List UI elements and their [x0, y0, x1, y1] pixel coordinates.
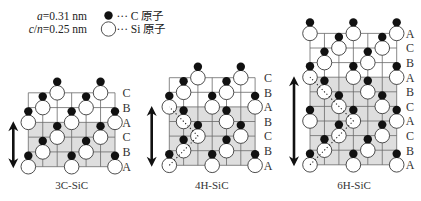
stacking-layer-label: B	[406, 85, 414, 99]
unit-cell-double-arrow-icon	[8, 121, 18, 168]
carbon-atom-icon	[349, 62, 357, 70]
carbon-atom-icon	[364, 135, 372, 143]
silicon-atom-icon	[303, 26, 318, 41]
carbon-atom-icon	[24, 107, 32, 115]
carbon-atom-icon	[67, 107, 75, 115]
stacking-layer-label: A	[122, 116, 131, 130]
carbon-atom-legend-label: ··· C 原子	[117, 10, 164, 22]
silicon-atom-icon	[375, 99, 390, 114]
carbon-atom-icon	[111, 107, 119, 115]
silicon-atom-icon	[219, 143, 234, 158]
silicon-atom-icon	[162, 100, 177, 115]
value-a: =0.31 nm	[43, 10, 87, 22]
carbon-atom-icon	[39, 137, 47, 145]
silicon-atom-icon	[108, 115, 123, 130]
carbon-atom-icon	[194, 121, 202, 129]
stacking-layer-label: A	[406, 114, 415, 128]
unit-cell-double-arrow-icon	[147, 106, 157, 167]
value-cn: =0.25 nm	[43, 23, 87, 35]
carbon-atom-icon	[306, 106, 314, 114]
silicon-atom-icon	[234, 70, 249, 85]
silicon-atom-icon	[205, 158, 220, 173]
panel-6h-sic: ACBABCACBA6H-SiC	[289, 18, 415, 191]
atom-layer-c	[50, 78, 108, 100]
silicon-atom-icon	[346, 158, 361, 173]
carbon-atom-icon	[306, 18, 314, 26]
silicon-atom-icon	[303, 114, 318, 129]
stacking-layer-label: B	[264, 115, 272, 129]
silicon-atom-icon	[176, 85, 191, 100]
carbon-atom-icon	[320, 47, 328, 55]
stacking-layer-label: C	[406, 41, 414, 55]
stacking-layer-label: A	[406, 158, 415, 172]
stacking-layer-label: B	[264, 86, 272, 100]
silicon-atom-icon	[21, 115, 36, 130]
stacking-layer-label: A	[406, 71, 415, 85]
silicon-atom-icon	[191, 70, 206, 85]
carbon-atom-icon	[393, 62, 401, 70]
silicon-atom-icon	[248, 100, 263, 115]
stacking-layer-label: A	[264, 159, 273, 173]
layer-spacing-c-over-n: c/n=0.25 nm	[29, 23, 87, 35]
carbon-atom-icon	[320, 77, 328, 85]
polytype-caption: 3C-SiC	[55, 179, 88, 191]
carbon-atom-icon	[165, 92, 173, 100]
carbon-atom-icon	[364, 47, 372, 55]
sic-polytype-diagram: a=0.31 nm c/n=0.25 nm ··· C 原子 ··· Si 原子…	[0, 0, 421, 201]
stacking-layer-label: C	[264, 71, 272, 85]
silicon-atom-icon	[21, 159, 36, 174]
stacking-layer-label: B	[122, 145, 130, 159]
silicon-atom-icon	[332, 41, 347, 56]
stacking-layer-label: C	[406, 129, 414, 143]
carbon-atom-icon	[237, 121, 245, 129]
carbon-atom-icon	[208, 92, 216, 100]
stacking-layer-label: A	[406, 27, 415, 41]
atom-layer-c	[191, 62, 249, 84]
carbon-atom-icon	[335, 33, 343, 41]
silicon-atom-icon	[361, 85, 376, 100]
carbon-atom-icon	[111, 152, 119, 160]
carbon-atom-icon	[393, 18, 401, 26]
silicon-atom-icon	[389, 26, 404, 41]
carbon-atom-icon	[82, 92, 90, 100]
carbon-atom-icon	[179, 136, 187, 144]
silicon-atom-icon	[346, 70, 361, 85]
stacking-layer-label: B	[406, 144, 414, 158]
silicon-atom-icon	[375, 128, 390, 143]
carbon-atom-icon	[165, 150, 173, 158]
silicon-atom-icon	[108, 159, 123, 174]
silicon-atom-icon	[346, 26, 361, 41]
carbon-atom-icon	[378, 33, 386, 41]
carbon-atom-icon	[208, 150, 216, 158]
carbon-atom-icon	[349, 150, 357, 158]
lattice-constant-a: a=0.31 nm	[37, 10, 87, 22]
stacking-layer-label: C	[122, 86, 130, 100]
carbon-atom-icon	[320, 135, 328, 143]
carbon-atom-icon	[364, 77, 372, 85]
carbon-atom-icon	[96, 78, 104, 86]
stacking-layer-label: B	[264, 144, 272, 158]
silicon-atom-icon	[35, 145, 50, 160]
carbon-atom-icon	[39, 92, 47, 100]
carbon-atom-icon	[378, 120, 386, 128]
silicon-atom-icon	[219, 85, 234, 100]
carbon-atom-icon	[393, 150, 401, 158]
carbon-atom-legend-icon	[104, 11, 112, 19]
silicon-atom-icon	[50, 86, 65, 101]
carbon-atom-icon	[251, 92, 259, 100]
silicon-atom-icon	[389, 158, 404, 173]
carbon-atom-icon	[378, 91, 386, 99]
silicon-atom-icon	[361, 143, 376, 158]
polytype-caption: 4H-SiC	[195, 179, 229, 191]
atom-layer-a	[303, 18, 404, 41]
stacking-layer-label: C	[122, 130, 130, 144]
silicon-atom-icon	[248, 158, 263, 173]
carbon-atom-icon	[306, 62, 314, 70]
silicon-atom-icon	[375, 41, 390, 56]
silicon-atom-legend-label: ··· Si 原子	[117, 23, 166, 35]
carbon-atom-icon	[349, 18, 357, 26]
stacking-layer-label: B	[122, 101, 130, 115]
silicon-atom-icon	[79, 145, 94, 160]
carbon-atom-icon	[237, 62, 245, 70]
panel-4h-sic: CBABCBA4H-SiC	[147, 62, 273, 191]
